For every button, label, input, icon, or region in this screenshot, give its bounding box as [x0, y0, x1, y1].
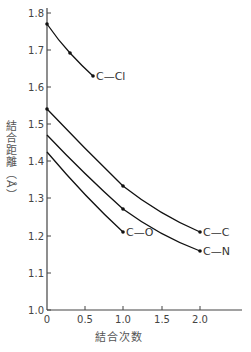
data-point — [198, 249, 202, 253]
data-point — [68, 51, 72, 55]
x-tick-label: 1.0 — [115, 314, 131, 325]
x-axis-title: 結合次数 — [95, 328, 143, 344]
data-point — [121, 207, 125, 211]
y-tick-label: 1.7 — [28, 45, 44, 56]
x-tick-label: 0.5 — [77, 314, 93, 325]
data-point — [45, 107, 49, 111]
x-tick-label: 0 — [44, 314, 50, 325]
bond-length-chart: 1.0 1.1 1.2 1.3 1.4 1.5 1.6 1.7 1.8 0 0.… — [0, 0, 251, 352]
x-tick-label: 1.5 — [154, 314, 170, 325]
y-tick-label: 1.3 — [28, 193, 44, 204]
y-tick-label: 1.0 — [28, 305, 44, 316]
series-line-c-cl — [47, 24, 93, 76]
y-tick-label: 1.4 — [28, 156, 44, 167]
y-tick-label: 1.6 — [28, 82, 44, 93]
data-point — [198, 230, 202, 234]
y-tick-labels: 1.0 1.1 1.2 1.3 1.4 1.5 1.6 1.7 1.8 — [28, 8, 44, 316]
x-tick-labels: 0 0.5 1.0 1.5 2.0 — [44, 314, 208, 325]
series-label-c-n: C—N — [203, 245, 230, 258]
series-label-c-o: C—O — [126, 226, 154, 239]
y-tick-label: 1.5 — [28, 119, 44, 130]
series-line-c-o — [47, 152, 123, 232]
y-tick-label: 1.2 — [28, 231, 44, 242]
data-point — [121, 184, 125, 188]
y-tick-label: 1.8 — [28, 8, 44, 19]
data-point — [45, 22, 49, 26]
y-tick-label: 1.1 — [28, 268, 44, 279]
x-tick-label: 2.0 — [192, 314, 208, 325]
series-line-c-c — [47, 109, 200, 232]
series-label-c-c: C—C — [203, 226, 230, 239]
data-point — [121, 230, 125, 234]
data-point — [91, 74, 95, 78]
series-label-c-cl: C—Cl — [96, 70, 125, 83]
y-axis-title: 結合距離（Å） — [4, 120, 18, 201]
